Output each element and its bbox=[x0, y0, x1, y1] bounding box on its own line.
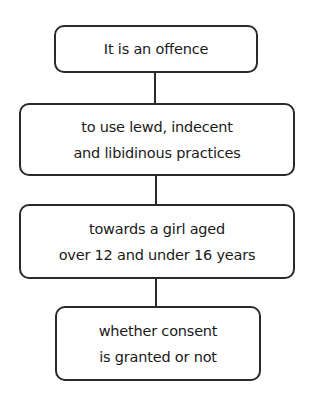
node-text-line: and libidinous practices bbox=[73, 140, 240, 166]
node-text-line: over 12 and under 16 years bbox=[59, 242, 256, 268]
flowchart-node-practices: to use lewd, indecent and libidinous pra… bbox=[19, 103, 295, 176]
flowchart-node-consent: whether consent is granted or not bbox=[55, 306, 261, 381]
node-text-line: to use lewd, indecent bbox=[81, 114, 233, 140]
connector-line bbox=[155, 176, 157, 204]
node-text-line: It is an offence bbox=[104, 36, 208, 62]
node-text-line: is granted or not bbox=[99, 344, 217, 370]
flowchart-node-offence: It is an offence bbox=[54, 25, 258, 73]
node-text-line: whether consent bbox=[99, 318, 218, 344]
connector-line bbox=[155, 279, 157, 306]
connector-line bbox=[154, 73, 156, 103]
flowchart-node-age: towards a girl aged over 12 and under 16… bbox=[19, 204, 295, 279]
node-text-line: towards a girl aged bbox=[89, 216, 225, 242]
